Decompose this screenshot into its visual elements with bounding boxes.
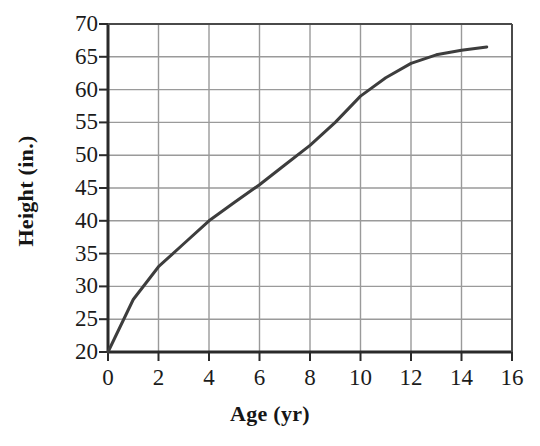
data-series-layer bbox=[108, 24, 512, 352]
x-axis-tick-label: 8 bbox=[290, 366, 330, 389]
x-axis-tick-label: 14 bbox=[442, 366, 482, 389]
x-axis-tick-label: 12 bbox=[391, 366, 431, 389]
x-axis-tick-label: 0 bbox=[88, 366, 128, 389]
x-axis-tick-label: 10 bbox=[341, 366, 381, 389]
x-axis-tick-label: 16 bbox=[492, 366, 532, 389]
x-axis-tick-label: 4 bbox=[189, 366, 229, 389]
x-axis-tick-label: 6 bbox=[240, 366, 280, 389]
y-axis-title: Height (in.) bbox=[13, 81, 39, 301]
x-axis-tick-label: 2 bbox=[139, 366, 179, 389]
data-line bbox=[108, 47, 487, 352]
x-axis-title: Age (yr) bbox=[0, 401, 540, 427]
chart-figure: 2025303540455055606570 0246810121416 Hei… bbox=[0, 0, 540, 446]
plot-area bbox=[108, 24, 512, 352]
